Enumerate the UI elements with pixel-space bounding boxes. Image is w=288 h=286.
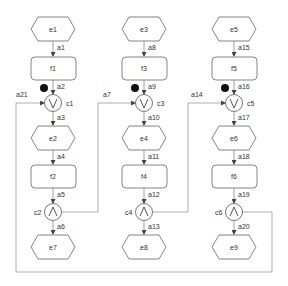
event-label: e1 <box>49 26 57 33</box>
arc-label: a12 <box>148 191 160 198</box>
function-label: f1 <box>50 65 56 72</box>
event-label: e5 <box>230 26 238 33</box>
token-dot <box>131 84 139 92</box>
token-dot <box>40 84 48 92</box>
event-label: e8 <box>140 244 148 251</box>
column-1: e1 a1 f1 a2 c1 a3 e2 a4 f2 a5 c2 a6 e7 <box>31 17 76 259</box>
event-label: e6 <box>230 135 238 142</box>
function-label: f6 <box>231 173 237 180</box>
event-label: e3 <box>140 26 148 33</box>
token-dot <box>221 84 229 92</box>
process-diagram: a21 a7 a14 e1 a1 f1 a2 c1 a3 e2 a4 f2 a5 <box>0 0 288 286</box>
event-label: e2 <box>49 135 57 142</box>
arc-label: a5 <box>57 191 65 198</box>
arc-label: a16 <box>238 83 250 90</box>
function-label: f3 <box>141 65 147 72</box>
arc-label: a10 <box>148 114 160 121</box>
arc-label: a1 <box>57 44 65 51</box>
arc-label: a9 <box>148 83 156 90</box>
function-label: f5 <box>231 65 237 72</box>
connector-label: c2 <box>34 209 42 216</box>
connector-label: c4 <box>125 209 133 216</box>
arc-label: a19 <box>238 191 250 198</box>
connector-label: c5 <box>247 100 255 107</box>
arc-label: a17 <box>238 114 250 121</box>
arc-label: a3 <box>57 114 65 121</box>
arc-label: a11 <box>148 153 159 160</box>
arc-label-a7: a7 <box>103 91 111 98</box>
event-label: e9 <box>230 244 238 251</box>
arc-label: a18 <box>238 153 250 160</box>
arc-label: a13 <box>148 223 160 230</box>
arc-label: a20 <box>238 223 250 230</box>
function-label: f4 <box>141 173 147 180</box>
connector-label: c6 <box>215 209 223 216</box>
event-label: e7 <box>49 244 57 251</box>
arc-label: a6 <box>57 223 65 230</box>
feedback-arc-a14 <box>153 103 225 212</box>
connector-label: c3 <box>157 100 165 107</box>
arc-label: a15 <box>238 44 250 51</box>
arc-label: a2 <box>57 83 65 90</box>
feedback-arc-a7 <box>62 103 135 212</box>
column-2: e3 a8 f3 a9 c3 a10 e4 a11 f4 a12 c4 a13 … <box>122 17 167 259</box>
function-label: f2 <box>50 173 56 180</box>
event-label: e4 <box>140 135 148 142</box>
arc-label-a21: a21 <box>16 91 28 98</box>
connector-label: c1 <box>66 100 74 107</box>
column-3: e5 a15 f5 a16 c5 a17 e6 a18 f6 a19 c6 a2… <box>212 17 257 259</box>
arc-label: a4 <box>57 153 65 160</box>
arc-label-a14: a14 <box>191 91 203 98</box>
arc-label: a8 <box>148 44 156 51</box>
